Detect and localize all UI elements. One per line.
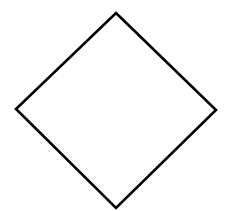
diagram-canvas: [0, 0, 228, 211]
diamond-shape: [16, 13, 216, 208]
